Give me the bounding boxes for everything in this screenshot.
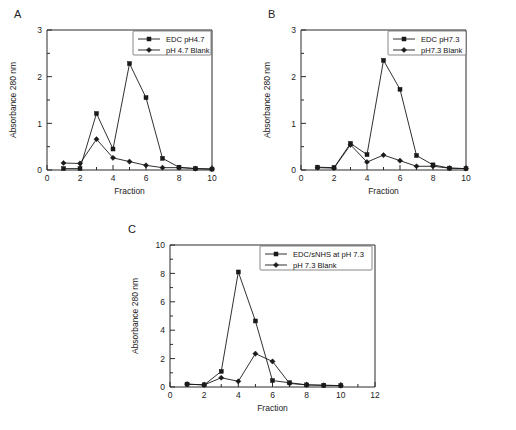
- data-point-square: [161, 156, 165, 160]
- x-tick-label: 0: [299, 173, 304, 183]
- x-tick-label: 10: [207, 173, 217, 183]
- data-point-diamond: [236, 379, 241, 384]
- series-line-0: [318, 60, 467, 168]
- x-tick-label: 8: [431, 173, 436, 183]
- legend-label: EDC pH4.7: [166, 35, 204, 44]
- x-tick-label: 4: [111, 173, 116, 183]
- y-tick-label: 3: [291, 25, 296, 35]
- y-tick-label: 10: [156, 240, 166, 250]
- series-line-1: [318, 145, 467, 169]
- x-tick-label: 0: [168, 390, 173, 400]
- data-point-square: [144, 96, 148, 100]
- y-axis-title: Absorbance 280 nm: [262, 62, 272, 138]
- panel-letter-c: C: [128, 223, 136, 235]
- legend-label: pH7.3 Blank: [421, 46, 463, 55]
- data-point-square: [253, 319, 257, 323]
- panel-letter-b: B: [268, 8, 276, 20]
- panel-b: B 01230246810FractionAbsorbance 280 nmED…: [258, 0, 516, 215]
- legend-marker-square: [274, 252, 278, 256]
- x-tick-label: 8: [304, 390, 309, 400]
- y-tick-label: 0: [160, 382, 165, 392]
- data-point-square: [236, 270, 240, 274]
- data-point-diamond: [381, 152, 386, 157]
- y-tick-label: 4: [160, 325, 165, 335]
- legend-marker-square: [147, 37, 151, 41]
- series-line-1: [64, 139, 213, 169]
- data-point-square: [271, 379, 275, 383]
- data-point-square: [95, 112, 99, 116]
- x-tick-label: 6: [270, 390, 275, 400]
- panel-c: C 0246810024681012FractionAbsorbance 280…: [120, 215, 410, 430]
- x-tick-label: 6: [398, 173, 403, 183]
- x-tick-label: 2: [202, 390, 207, 400]
- x-tick-label: 4: [365, 173, 370, 183]
- legend-label: pH 4.7 Blank: [166, 46, 210, 55]
- x-tick-label: 10: [336, 390, 346, 400]
- y-tick-label: 6: [160, 297, 165, 307]
- series-line-1: [187, 354, 341, 386]
- x-axis-title: Fraction: [368, 186, 399, 196]
- panel-a: A 01230246810FractionAbsorbance 280 nmED…: [0, 0, 258, 215]
- series-line-0: [187, 272, 341, 386]
- data-point-square: [219, 369, 223, 373]
- x-tick-label: 6: [144, 173, 149, 183]
- x-tick-label: 4: [236, 390, 241, 400]
- panel-letter-a: A: [14, 8, 22, 20]
- chart-c: 0246810024681012FractionAbsorbance 280 n…: [120, 215, 410, 430]
- data-point-square: [382, 58, 386, 62]
- data-point-diamond: [414, 164, 419, 169]
- y-tick-label: 2: [291, 72, 296, 82]
- y-tick-label: 1: [37, 119, 42, 129]
- x-tick-label: 2: [332, 173, 337, 183]
- data-point-diamond: [219, 375, 224, 380]
- data-point-diamond: [61, 160, 66, 165]
- y-tick-label: 2: [37, 72, 42, 82]
- legend-marker-square: [402, 37, 406, 41]
- data-point-diamond: [143, 163, 148, 168]
- data-point-diamond: [160, 165, 165, 170]
- x-tick-label: 12: [370, 390, 380, 400]
- legend-label: pH 7.3 Blank: [293, 261, 337, 270]
- y-tick-label: 0: [37, 165, 42, 175]
- data-point-square: [78, 167, 82, 171]
- chart-b: 01230246810FractionAbsorbance 280 nmEDC …: [258, 0, 516, 215]
- y-axis-title: Absorbance 280 nm: [8, 62, 18, 138]
- data-point-diamond: [397, 158, 402, 163]
- x-tick-label: 8: [177, 173, 182, 183]
- series-line-0: [64, 64, 213, 169]
- data-point-square: [415, 154, 419, 158]
- x-axis-title: Fraction: [257, 403, 288, 413]
- legend-label: EDC pH7.3: [421, 35, 459, 44]
- x-tick-label: 0: [45, 173, 50, 183]
- x-tick-label: 10: [461, 173, 471, 183]
- data-point-square: [365, 153, 369, 157]
- chart-a: 01230246810FractionAbsorbance 280 nmEDC …: [0, 0, 258, 215]
- y-axis-title: Absorbance 280 nm: [130, 278, 140, 354]
- x-tick-label: 2: [78, 173, 83, 183]
- y-tick-label: 0: [291, 165, 296, 175]
- legend-label: EDC/sNHS at pH 7.3: [293, 250, 364, 259]
- data-point-diamond: [253, 351, 258, 356]
- data-point-square: [398, 87, 402, 91]
- y-tick-label: 8: [160, 269, 165, 279]
- data-point-diamond: [127, 159, 132, 164]
- y-tick-label: 2: [160, 354, 165, 364]
- data-point-square: [111, 147, 115, 151]
- y-tick-label: 3: [37, 25, 42, 35]
- data-point-square: [128, 62, 132, 66]
- data-point-square: [62, 167, 66, 171]
- y-tick-label: 1: [291, 119, 296, 129]
- x-axis-title: Fraction: [114, 186, 145, 196]
